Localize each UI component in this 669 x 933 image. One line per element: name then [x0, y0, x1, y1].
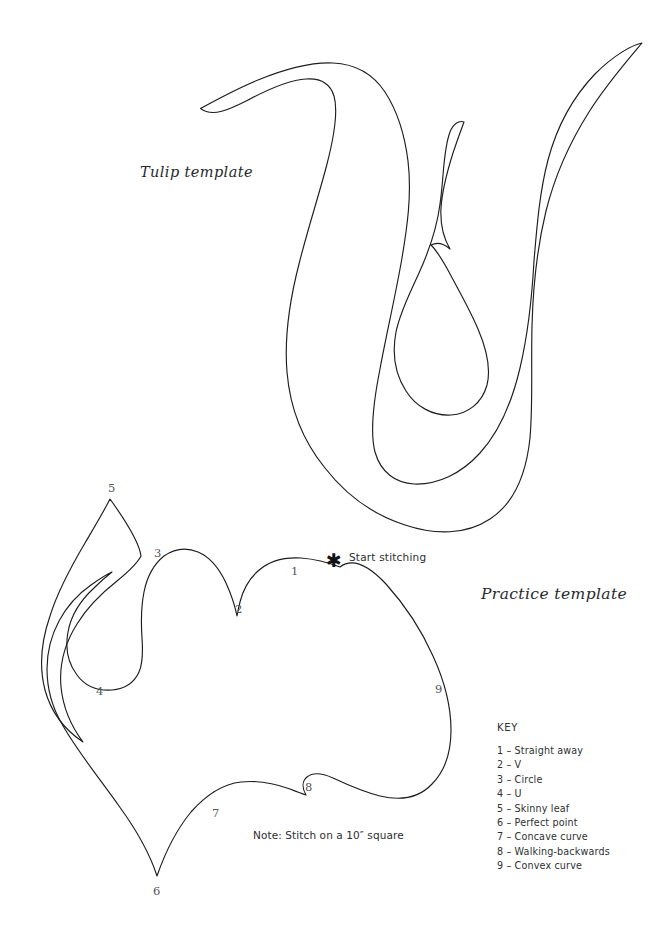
start-stitching-asterisk-icon: ✱: [326, 551, 342, 570]
key-item: 4 – U: [497, 787, 647, 801]
key-legend: KEY 1 – Straight away 2 – V 3 – Circle 4…: [497, 722, 647, 874]
key-item: 7 – Concave curve: [497, 830, 647, 844]
practice-template-title: Practice template: [481, 585, 627, 603]
tulip-outline-path: [201, 43, 643, 532]
callout-number-3: 3: [154, 546, 161, 560]
template-page: Tulip template Practice template ✱ Start…: [0, 0, 669, 933]
stitch-note: Note: Stitch on a 10″ square: [253, 829, 404, 841]
key-list: 1 – Straight away 2 – V 3 – Circle 4 – U…: [497, 744, 647, 874]
practice-heart-outline-path: [47, 549, 451, 876]
practice-heart-skinny-leaf-path: [42, 499, 141, 742]
start-stitching-label: Start stitching: [349, 551, 426, 563]
callout-number-9: 9: [435, 682, 442, 696]
callout-number-8: 8: [305, 780, 312, 794]
key-item: 2 – V: [497, 758, 647, 772]
key-item: 3 – Circle: [497, 773, 647, 787]
callout-number-1: 1: [291, 564, 298, 578]
key-item: 9 – Convex curve: [497, 859, 647, 873]
key-item: 6 – Perfect point: [497, 816, 647, 830]
callout-number-6: 6: [153, 884, 160, 898]
key-item: 5 – Skinny leaf: [497, 802, 647, 816]
callout-number-7: 7: [212, 806, 219, 820]
key-item: 8 – Walking-backwards: [497, 845, 647, 859]
callout-number-4: 4: [96, 684, 103, 698]
tulip-template-title: Tulip template: [140, 164, 253, 180]
key-item: 1 – Straight away: [497, 744, 647, 758]
key-title: KEY: [497, 722, 647, 733]
callout-number-2: 2: [235, 602, 242, 616]
callout-number-5: 5: [108, 481, 115, 495]
